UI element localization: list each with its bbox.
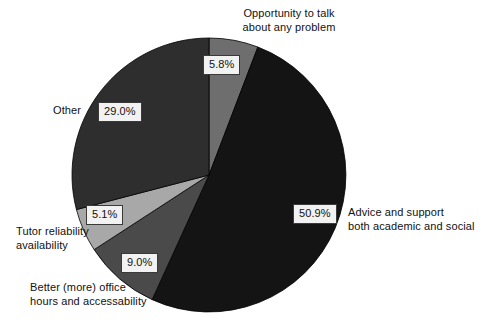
slice-label-better-office-hours-line1: Better (more) office [30, 281, 126, 293]
slice-label-opportunity-to-talk: Opportunity to talkabout any problem [224, 7, 354, 34]
slice-value-advice-and-support: 50.9% [293, 204, 337, 224]
slice-label-opportunity-to-talk-line2: about any problem [243, 21, 336, 33]
slice-value-better-office-hours: 9.0% [121, 253, 158, 273]
pie-slice-group [72, 38, 346, 312]
pie-chart-figure: 5.8% 50.9% 9.0% 5.1% 29.0% Opportunity t… [0, 0, 483, 333]
slice-label-other: Other [53, 104, 98, 118]
slice-label-advice-and-support-line2: both academic and social [348, 220, 475, 232]
slice-label-advice-and-support: Advice and supportboth academic and soci… [348, 206, 483, 233]
slice-value-tutor-reliability: 5.1% [86, 205, 123, 225]
slice-value-opportunity-to-talk: 5.8% [203, 55, 240, 75]
slice-label-better-office-hours-line2: hours and accessability [30, 295, 147, 307]
slice-label-better-office-hours: Better (more) officehours and accessabil… [30, 281, 180, 308]
slice-label-tutor-reliability: Tutor reliabilityavailability [16, 225, 111, 252]
slice-label-opportunity-to-talk-line1: Opportunity to talk [243, 7, 334, 19]
slice-value-other: 29.0% [98, 102, 142, 122]
slice-label-tutor-reliability-line2: availability [16, 239, 68, 251]
slice-label-tutor-reliability-line1: Tutor reliability [16, 225, 89, 237]
slice-label-advice-and-support-line1: Advice and support [348, 206, 444, 218]
